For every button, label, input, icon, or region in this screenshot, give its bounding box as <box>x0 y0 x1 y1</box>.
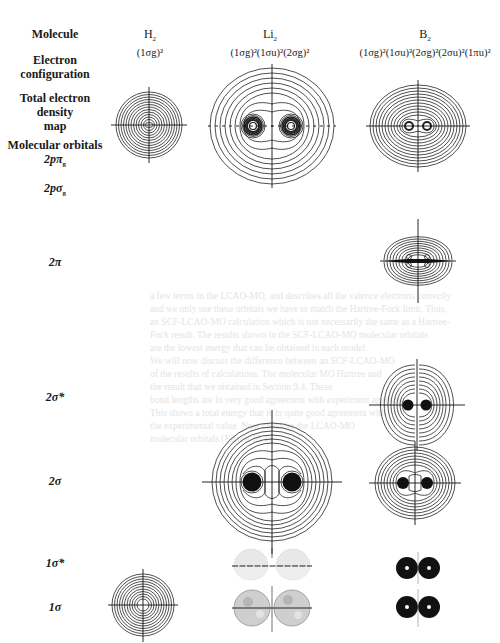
row-label-2pi: 2π <box>0 255 110 269</box>
label-line: density <box>0 105 110 119</box>
electron-configuration: (1σg)²(1σu)²(2σg)²(2σu)²(1πu)² <box>350 46 500 60</box>
li2-1sigma-orbital-map <box>228 585 318 633</box>
label-text: 2σ <box>49 474 61 488</box>
row-label-molecule: Molecule <box>0 27 110 41</box>
row-label-molecular-orbitals: Molecular orbitals <box>0 138 110 152</box>
molecule-name: B2 <box>350 27 500 46</box>
molecule-subscript: 2 <box>427 35 431 43</box>
row-label-1sigma: 1σ <box>0 600 110 614</box>
row-label-2ppi-g: 2pπg <box>0 152 110 171</box>
row-label-2sigma: 2σ <box>0 474 110 488</box>
ghost-line: are the lowest energy that can be obtain… <box>150 342 480 355</box>
molecule-name: H2 <box>120 27 180 46</box>
row-label-2psigma-g: 2pσg <box>0 181 110 200</box>
ghost-line: and we only use these orbitals we have t… <box>150 303 480 316</box>
column-header-b2: B2 (1σg)²(1σu)²(2σg)²(2σu)²(1πu)² <box>350 27 500 60</box>
molecule-symbol: Li <box>263 27 274 41</box>
h2-1sigma-orbital-map <box>108 568 180 643</box>
label-text: 1σ <box>49 600 61 614</box>
label-text: 2π <box>49 255 62 269</box>
li2-2sigma-orbital-map <box>200 408 345 556</box>
label-text: 2σ* <box>46 390 64 404</box>
label-line: Total electron <box>0 91 110 105</box>
ghost-line: an SCF-LCAO-MO calculation which is not … <box>150 316 480 329</box>
b2-total-density-map <box>365 80 475 175</box>
label-sub: g <box>63 160 67 168</box>
molecule-name: Li2 <box>195 27 345 46</box>
h2-total-density-map <box>110 86 190 166</box>
label-text: 1σ* <box>46 556 64 570</box>
label-text: 2pσ <box>44 181 62 195</box>
electron-configuration: (1σg)²(1σu)²(2σg)² <box>195 46 345 60</box>
molecule-subscript: 2 <box>153 35 157 43</box>
row-label-2sigma-star: 2σ* <box>0 390 110 404</box>
b2-1sigma-star-orbital-map <box>390 551 448 585</box>
label-line: Electron <box>0 53 110 67</box>
row-label-1sigma-star: 1σ* <box>0 556 110 570</box>
ghost-line: Fock result. The results shown in the SC… <box>150 329 480 342</box>
b2-1sigma-orbital-map <box>390 588 448 628</box>
b2-2sigma-star-orbital-map <box>368 357 468 453</box>
column-header-li2: Li2 (1σg)²(1σu)²(2σg)² <box>195 27 345 60</box>
b2-2sigma-orbital-map <box>368 440 468 528</box>
molecule-symbol: H <box>144 27 153 41</box>
column-header-h2: H2 (1σg)² <box>120 27 180 60</box>
row-label-total-density: Total electron density map <box>0 91 110 133</box>
li2-total-density-map <box>205 64 340 189</box>
b2-2pi-orbital-map <box>378 218 462 304</box>
electron-configuration: (1σg)² <box>120 46 180 60</box>
label-line: map <box>0 119 110 133</box>
row-label-electron-configuration: Electron configuration <box>0 53 110 81</box>
molecule-subscript: 2 <box>274 35 278 43</box>
label-text: 2pπ <box>44 152 63 166</box>
label-line: configuration <box>0 67 110 81</box>
li2-1sigma-star-orbital-map <box>228 548 318 584</box>
label-sub: g <box>62 189 66 197</box>
